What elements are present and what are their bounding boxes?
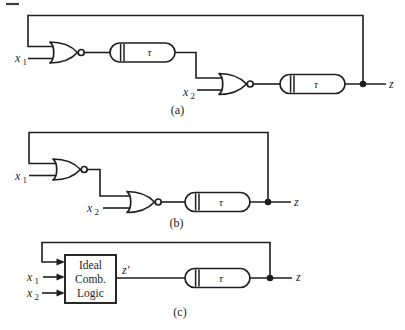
comb-logic-box-line3: Logic xyxy=(77,287,104,300)
label-x2-a: x xyxy=(182,85,189,99)
circuit-figure: x 1 x 2 τ τ z (a) x 1 x 2 τ z (b) xyxy=(0,0,405,330)
label-x2-b: x xyxy=(86,201,93,215)
label-x1-sub-a: 1 xyxy=(23,57,28,67)
label-x1-sub-c: 1 xyxy=(35,276,40,286)
junction-dot-a xyxy=(360,81,367,88)
label-z-c: z xyxy=(295,270,301,284)
label-x2-sub-c: 2 xyxy=(35,292,40,302)
junction-dot-c xyxy=(267,275,274,282)
wire-delay1-to-gate2-a xyxy=(173,53,222,79)
delay-element-1-a xyxy=(110,43,175,62)
arrowhead-x1-c xyxy=(57,273,66,280)
nor-gate-1-b xyxy=(53,159,87,180)
arrowhead-feedback-c xyxy=(57,258,66,265)
nor-gate-2-b xyxy=(127,192,161,213)
circuit-c: Ideal Comb. Logic x 1 x 2 z′ τ z (c) xyxy=(26,243,301,319)
label-x2-sub-a: 2 xyxy=(191,91,196,101)
caption-b: (b) xyxy=(170,216,184,230)
label-x2-sub-b: 2 xyxy=(95,207,100,217)
caption-a: (a) xyxy=(171,103,184,117)
label-x1-sub-b: 1 xyxy=(23,175,28,185)
label-x1-b: x xyxy=(14,169,21,183)
circuit-b: x 1 x 2 τ z (b) xyxy=(14,133,299,231)
label-x1-a: x xyxy=(14,51,21,65)
wire-gate1-to-gate2-b xyxy=(88,170,132,197)
delay-element-c xyxy=(185,269,250,288)
label-z-b: z xyxy=(293,195,299,209)
label-z-a: z xyxy=(388,77,394,91)
nor-gate-2-a xyxy=(219,74,253,95)
label-x1-c: x xyxy=(26,270,33,284)
circuit-a: x 1 x 2 τ τ z (a) xyxy=(14,16,394,118)
comb-logic-box-line2: Comb. xyxy=(75,273,106,285)
comb-logic-box-line1: Ideal xyxy=(79,259,102,271)
label-zprime-c: z′ xyxy=(121,263,130,277)
label-x2-c: x xyxy=(26,286,33,300)
caption-c: (c) xyxy=(173,305,186,319)
arrowhead-x2-c xyxy=(57,289,66,296)
delay-element-2-a xyxy=(280,75,345,94)
delay-element-b xyxy=(185,193,250,212)
nor-gate-1-a xyxy=(50,42,84,63)
junction-dot-b xyxy=(265,199,272,206)
